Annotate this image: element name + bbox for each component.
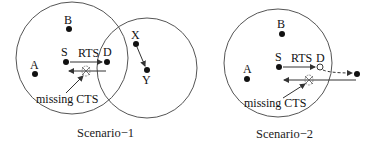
s1-label-d: D [103, 45, 112, 59]
s1-label-a: A [30, 58, 39, 72]
s2-d-moves-arrow [323, 70, 352, 73]
scenario-1: B A S D RTS missing CTS X Y Scenario−1 [16, 2, 197, 140]
s2-node-s [276, 64, 282, 70]
s1-node-s [63, 59, 69, 65]
s2-caption: Scenario−2 [256, 127, 313, 141]
s1-label-b: B [64, 13, 72, 27]
s2-node-b [279, 31, 285, 37]
s1-node-d [104, 59, 110, 65]
s2-rts-label: RTS [291, 51, 312, 65]
s2-label-b: B [277, 17, 285, 31]
diagram-canvas: B A S D RTS missing CTS X Y Scenario−1 B… [0, 0, 376, 146]
s2-node-d-new-position [354, 71, 360, 77]
s2-label-d: D [316, 51, 325, 65]
s2-missing-cts-label: missing CTS [244, 96, 306, 110]
s1-x-to-y-arrow [137, 47, 145, 66]
s1-caption: Scenario−1 [77, 126, 134, 140]
s1-label-x: X [131, 28, 140, 42]
s1-missing-cts-pointer [66, 76, 83, 93]
s1-rts-label: RTS [78, 46, 99, 60]
s2-label-s: S [275, 50, 282, 64]
s1-label-y: Y [142, 73, 151, 87]
s1-label-s: S [61, 45, 68, 59]
scenario-2: B A S D RTS missing CTS Scenario−2 [224, 9, 360, 141]
s1-missing-cts-label: missing CTS [36, 92, 98, 106]
s2-label-a: A [243, 62, 252, 76]
s2-node-a [244, 76, 250, 82]
